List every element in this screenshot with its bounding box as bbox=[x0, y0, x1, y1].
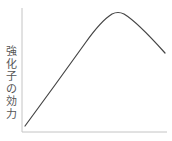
line-chart bbox=[0, 0, 172, 141]
potency-curve bbox=[25, 13, 165, 127]
y-axis-label: 強化子の効力 bbox=[4, 46, 18, 121]
